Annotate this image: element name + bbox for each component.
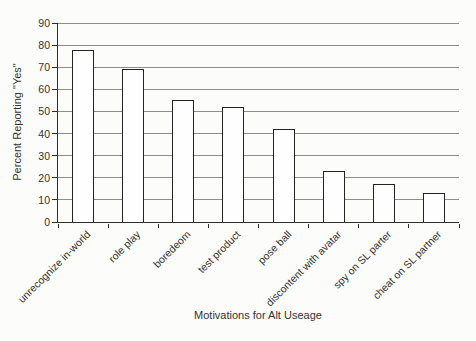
category-label: role play <box>28 228 143 341</box>
y-tick-mark <box>52 67 57 68</box>
y-tick-mark <box>52 133 57 134</box>
gridline <box>58 89 459 90</box>
y-tick-label: 30 <box>2 150 50 162</box>
y-tick-label: 10 <box>2 194 50 206</box>
y-axis-title: Percent Reporting "Yes" <box>11 63 23 180</box>
x-axis-title: Motivations for Alt Useage <box>57 309 459 321</box>
category-label: pose ball <box>178 228 293 341</box>
bar-chart-figure: Percent Reporting "Yes" 0102030405060708… <box>0 0 476 341</box>
bar <box>423 193 445 222</box>
y-tick-label: 50 <box>2 105 50 117</box>
gridline <box>58 23 459 24</box>
y-tick-mark <box>52 23 57 24</box>
x-tick-mark <box>358 224 359 228</box>
y-tick-label: 20 <box>2 172 50 184</box>
gridline <box>58 177 459 178</box>
bar <box>222 107 244 222</box>
y-tick-label: 0 <box>2 216 50 228</box>
x-tick-mark <box>459 224 460 228</box>
bar <box>122 69 144 222</box>
bar <box>373 184 395 222</box>
y-tick-mark <box>52 155 57 156</box>
gridline <box>58 133 459 134</box>
x-tick-mark <box>58 224 59 228</box>
x-tick-mark <box>108 224 109 228</box>
category-label: cheat on SL partner <box>329 228 444 341</box>
y-tick-label: 70 <box>2 61 50 73</box>
category-label: discontent with avatar <box>229 228 344 341</box>
gridline <box>58 199 459 200</box>
gridline <box>58 155 459 156</box>
x-tick-mark <box>308 224 309 228</box>
bar <box>72 50 94 222</box>
plot-area <box>57 23 459 223</box>
y-tick-mark <box>52 111 57 112</box>
y-tick-label: 60 <box>2 83 50 95</box>
bar <box>323 171 345 222</box>
y-tick-label: 80 <box>2 39 50 51</box>
y-tick-mark <box>52 45 57 46</box>
gridline <box>58 67 459 68</box>
bar <box>172 100 194 222</box>
category-label: spy on SL parter <box>279 228 394 341</box>
y-tick-mark <box>52 89 57 90</box>
y-tick-mark <box>52 177 57 178</box>
gridline <box>58 111 459 112</box>
gridline <box>58 45 459 46</box>
y-tick-mark <box>52 199 57 200</box>
x-tick-mark <box>408 224 409 228</box>
y-tick-mark <box>52 222 57 223</box>
x-tick-mark <box>208 224 209 228</box>
x-tick-mark <box>158 224 159 228</box>
y-tick-label: 90 <box>2 17 50 29</box>
category-label: test product <box>128 228 243 341</box>
x-tick-mark <box>258 224 259 228</box>
bar <box>273 129 295 222</box>
y-tick-label: 40 <box>2 128 50 140</box>
